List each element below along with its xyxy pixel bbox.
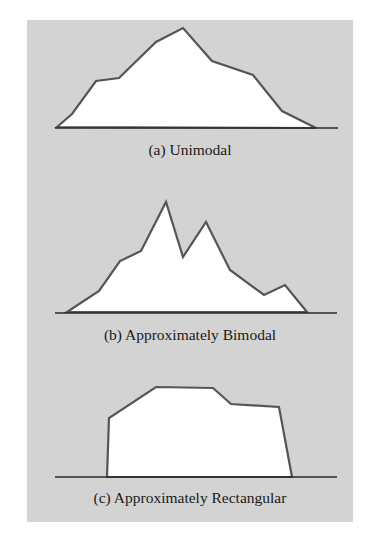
- shape-bimodal: [55, 202, 337, 313]
- rectangular-polygon: [107, 387, 292, 477]
- caption-unimodal: (a) Unimodal: [27, 141, 353, 159]
- shape-unimodal: [55, 28, 338, 128]
- distribution-shapes: [0, 0, 380, 545]
- caption-rectangular: (c) Approximately Rectangular: [27, 489, 353, 507]
- caption-bimodal: (b) Approximately Bimodal: [27, 326, 353, 344]
- unimodal-polygon: [57, 28, 316, 128]
- bimodal-polygon: [67, 202, 307, 312]
- shape-rectangular: [55, 387, 337, 477]
